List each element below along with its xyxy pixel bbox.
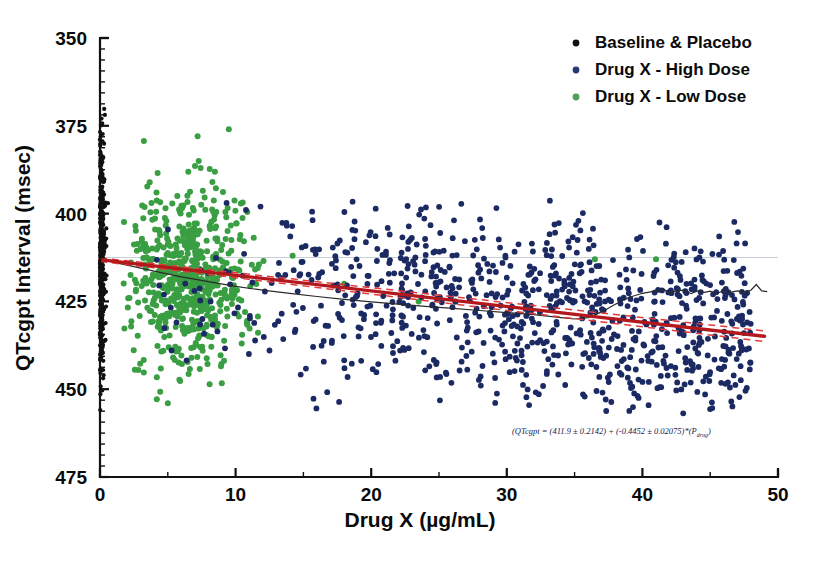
- data-point: [747, 367, 753, 373]
- data-point: [476, 377, 482, 383]
- y-axis-title: QTcgpt Interval (msec): [11, 145, 34, 371]
- data-point: [121, 219, 127, 225]
- data-point: [393, 358, 399, 364]
- data-point: [191, 208, 197, 214]
- data-point: [646, 379, 652, 385]
- data-point: [101, 339, 105, 343]
- data-point: [570, 298, 576, 304]
- data-point: [251, 320, 257, 326]
- data-point: [177, 302, 183, 308]
- data-point: [403, 275, 409, 281]
- data-point: [684, 344, 690, 350]
- data-point: [190, 295, 196, 301]
- data-point: [502, 329, 508, 335]
- data-point: [630, 268, 636, 274]
- data-point: [173, 310, 179, 316]
- data-point: [222, 323, 228, 329]
- data-point: [154, 396, 160, 402]
- data-point: [526, 402, 532, 408]
- data-point: [151, 290, 157, 296]
- data-point: [514, 324, 520, 330]
- data-point: [358, 325, 364, 331]
- data-point: [503, 356, 509, 362]
- data-point: [747, 309, 753, 315]
- data-point: [447, 317, 453, 323]
- data-point: [354, 256, 360, 262]
- data-point: [744, 320, 750, 326]
- data-point: [318, 303, 324, 309]
- data-point: [204, 312, 210, 318]
- data-point: [606, 345, 612, 351]
- data-point: [679, 259, 685, 265]
- data-point: [633, 367, 639, 373]
- data-point: [462, 238, 468, 244]
- data-point: [536, 321, 542, 327]
- data-point: [504, 292, 510, 298]
- data-point: [464, 319, 470, 325]
- data-point: [739, 316, 745, 322]
- data-point: [158, 366, 164, 372]
- data-point: [310, 344, 316, 350]
- data-point: [230, 295, 236, 301]
- data-point: [209, 179, 215, 185]
- data-point: [677, 314, 683, 320]
- data-point: [150, 272, 156, 278]
- data-point: [477, 217, 483, 223]
- data-point: [218, 363, 224, 369]
- data-point: [721, 257, 727, 263]
- data-point: [178, 353, 184, 359]
- data-point: [617, 284, 623, 290]
- data-point: [709, 399, 715, 405]
- data-point: [618, 347, 624, 353]
- data-point: [212, 169, 218, 175]
- data-point: [588, 330, 594, 336]
- data-point: [523, 291, 529, 297]
- data-point: [348, 264, 354, 270]
- data-point: [544, 240, 550, 246]
- data-point: [213, 223, 219, 229]
- data-point: [625, 247, 631, 253]
- data-point: [488, 313, 494, 319]
- data-point: [152, 312, 158, 318]
- data-point: [580, 293, 586, 299]
- data-point: [454, 252, 460, 258]
- data-point: [434, 321, 440, 327]
- data-point: [422, 258, 428, 264]
- data-point: [208, 334, 214, 340]
- data-point: [184, 325, 190, 331]
- legend-label: Drug X - Low Dose: [595, 87, 746, 106]
- x-tick-label: 50: [767, 484, 788, 505]
- data-point: [449, 283, 455, 289]
- data-point: [241, 238, 247, 244]
- data-point: [399, 250, 405, 256]
- data-point: [459, 359, 465, 365]
- data-point: [715, 296, 721, 302]
- x-tick-label: 20: [361, 484, 382, 505]
- data-point: [459, 345, 465, 351]
- data-point: [222, 287, 228, 293]
- data-point: [238, 259, 244, 265]
- data-point: [520, 382, 526, 388]
- data-point: [154, 374, 160, 380]
- data-point: [598, 277, 604, 283]
- data-point: [524, 394, 530, 400]
- data-point: [147, 209, 153, 215]
- data-point: [478, 276, 484, 282]
- data-point: [137, 313, 143, 319]
- data-point: [141, 138, 147, 144]
- data-point: [545, 356, 551, 362]
- data-point: [236, 296, 242, 302]
- data-point: [673, 388, 679, 394]
- data-point: [368, 334, 374, 340]
- data-point: [405, 246, 411, 252]
- data-point: [590, 226, 596, 232]
- data-point: [365, 281, 371, 287]
- data-point: [417, 314, 423, 320]
- data-point: [157, 199, 163, 205]
- data-point: [161, 334, 167, 340]
- data-point: [374, 369, 380, 375]
- data-point: [219, 242, 225, 248]
- data-point: [185, 169, 191, 175]
- data-point: [294, 309, 300, 315]
- data-point: [173, 241, 179, 247]
